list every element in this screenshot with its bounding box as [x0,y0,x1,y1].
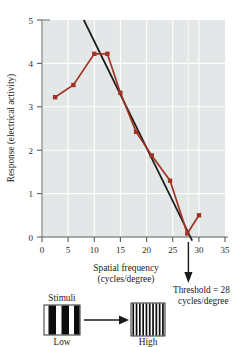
y-tick-label-2: 2 [29,146,34,156]
plot-background [42,20,225,237]
high-frequency-label: High [139,337,158,347]
x-tick-label-25: 25 [168,245,178,255]
x-tick-label-20: 20 [142,245,152,255]
y-tick-label-4: 4 [29,59,34,69]
low-frequency-label: Low [53,337,70,347]
x-axis-title-line2: (cycles/degree) [98,274,155,285]
spatial-frequency-response-chart: 0 1 2 3 4 5 0 5 10 15 20 25 30 35 Respon… [0,0,249,347]
x-tick-label-5: 5 [66,245,71,255]
stimuli-arrow-icon [84,316,129,325]
x-axis-ticks [42,237,225,242]
low-frequency-grating [44,305,80,335]
x-axis-title-line1: Spatial frequency [93,263,159,273]
x-tick-label-10: 10 [90,245,100,255]
x-tick-label-0: 0 [40,245,45,255]
x-tick-label-35: 35 [221,245,231,255]
stimuli-title: Stimuli [48,293,76,303]
figure-container: 0 1 2 3 4 5 0 5 10 15 20 25 30 35 Respon… [0,0,249,347]
y-tick-label-0: 0 [29,233,34,243]
y-tick-label-3: 3 [29,102,34,112]
y-tick-label-5: 5 [29,16,34,26]
y-axis-ticks [37,20,42,237]
high-frequency-grating [131,303,165,336]
threshold-label-line2: cycles/degree [178,296,229,306]
threshold-label-line1: Threshold = 28 [173,285,230,295]
x-tick-label-30: 30 [194,245,204,255]
y-tick-label-1: 1 [29,189,34,199]
x-tick-label-15: 15 [116,245,126,255]
threshold-arrow-icon [184,242,192,283]
y-axis-title: Response (electrical activity) [6,74,17,182]
